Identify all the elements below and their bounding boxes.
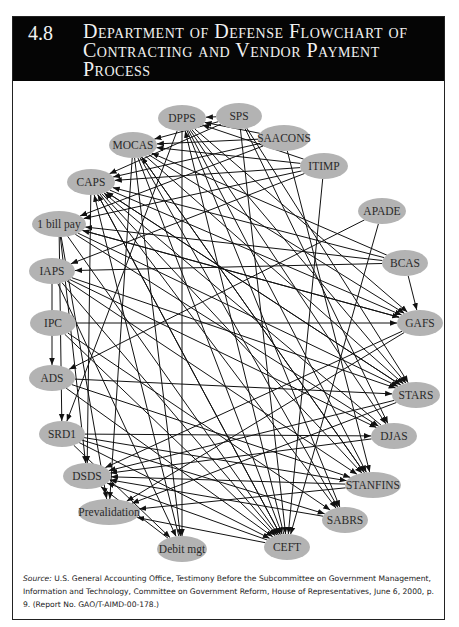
node-label: SRD1 [48,428,76,440]
node-label: DSDS [72,470,101,482]
node-bcas: BCAS [382,250,428,276]
node-caps: CAPS [67,169,115,195]
edge-itimp-to-1_bill_pay [84,171,302,219]
node-label: APADE [363,205,400,217]
node-ads: ADS [29,365,75,391]
node-gafs: GAFS [397,310,443,336]
node-label: ADS [40,372,63,384]
node-sabrs: SABRS [322,507,368,533]
node-label: 1 bill pay [37,218,81,231]
node-srd1: SRD1 [39,421,85,447]
edge-mocas-to-gafs [149,155,405,314]
node-stars: STARS [392,382,440,408]
node-mocas: MOCAS [109,132,157,158]
node-dpps: DPPS [158,105,206,131]
edge-bcas-to-gafs [408,276,417,310]
node-apade: APADE [358,198,406,224]
node-label: IAPS [40,265,65,277]
edge-mocas-to-prevalidation [110,158,132,499]
node-label: STANFINS [346,479,400,491]
node-label: Debit mgt [159,543,206,556]
flowchart-diagram: DPPSSPSSAACONSITIMPAPADEBCASGAFSSTARSDJA… [0,0,459,627]
edge-caps-to-dsds [87,195,91,463]
node-label: SPS [229,110,248,122]
edge-gafs-to-1_bill_pay [83,230,400,317]
node-sps: SPS [216,103,262,129]
node-dsds: DSDS [63,463,111,489]
edge-gafs-to-dsds [105,331,402,467]
edge-srd1-to-djas [85,434,371,436]
node-label: GAFS [405,317,434,329]
edge-djas-to-dsds [110,439,371,473]
node-itimp: ITIMP [300,153,348,179]
node-iaps: IAPS [29,258,75,284]
node-label: BCAS [390,257,420,269]
node-label: DJAS [380,430,407,442]
node-debit-mgt: Debit mgt [157,536,207,562]
node-ceft: CEFT [264,534,310,560]
node-label: SABRS [327,514,363,526]
node-label: ITIMP [308,160,339,172]
node-label: CAPS [77,176,106,188]
edge-stanfins-to-mocas [142,157,365,473]
node-djas: DJAS [371,423,417,449]
edge-djas-to-caps [104,193,381,425]
node-stanfins: STANFINS [345,472,401,498]
node-label: CEFT [273,541,301,553]
node-ipc: IPC [30,310,76,336]
node-label: MOCAS [113,139,154,151]
edge-caps-to-gafs [110,190,402,315]
node-label: DPPS [168,112,196,124]
node-label: STARS [399,389,434,401]
edge-mocas-to-ceft [138,158,282,535]
node-label: SAACONS [257,132,311,144]
node-1-bill-pay: 1 bill pay [32,211,86,237]
node-label: IPC [44,317,62,329]
edge-ceft-to-prevalidation [137,518,265,543]
node-saacons: SAACONS [257,125,311,151]
node-label: Prevalidation [78,506,140,518]
node-prevalidation: Prevalidation [78,499,140,525]
